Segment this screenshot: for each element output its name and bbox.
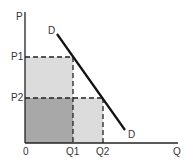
x-axis-label: Q (173, 146, 181, 157)
demand-label-end: D (128, 129, 135, 140)
q1-label: Q1 (66, 146, 80, 157)
demand-label-start: D (48, 25, 55, 36)
origin-label: 0 (23, 146, 29, 157)
region-right-light (73, 98, 103, 143)
y-axis-label: P (16, 11, 23, 22)
p2-label: P2 (11, 92, 24, 103)
region-dark (25, 98, 73, 143)
region-upper-light (25, 57, 73, 98)
q2-label: Q2 (96, 146, 110, 157)
demand-diagram: P Q 0 P1 P2 Q1 Q2 D D (0, 0, 186, 164)
p1-label: P1 (11, 51, 24, 62)
